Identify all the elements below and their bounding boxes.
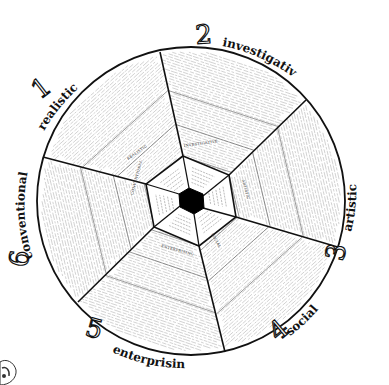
section-number-5: 5 [82, 312, 106, 345]
section-label-artistic: artistic [340, 184, 359, 233]
section-label-conventional: conventional [13, 170, 35, 261]
holland-code-wheel: REALISTIC INVESTIGATIVE ARTISTIC SOCIAL … [0, 0, 389, 385]
section-number-1: 1 [25, 71, 57, 105]
section-label-investigative: investigative [0, 0, 300, 80]
center-hexagon [179, 188, 204, 214]
section-number-2: 2 [194, 19, 213, 50]
inner-label-conventional: CONVENTIONAL [130, 159, 143, 195]
corner-emblem-icon [0, 360, 16, 385]
section-number-3: 3 [320, 241, 353, 263]
